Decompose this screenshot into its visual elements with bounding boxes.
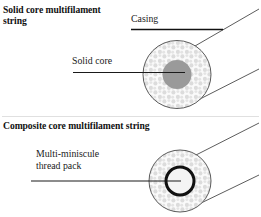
solid-core-disc xyxy=(163,60,192,89)
cylinder-top-edge-line-2 xyxy=(196,123,259,155)
section-title-composite-core: Composite core multifilament string xyxy=(3,120,183,131)
label-solid-core: Solid core xyxy=(72,55,112,67)
cylinder-top-edge-line xyxy=(195,9,259,46)
label-casing: Casing xyxy=(131,13,158,25)
diagram-graphics xyxy=(0,0,261,217)
diagram-canvas: Solid core multifilament string Casing S… xyxy=(0,0,261,217)
section-title-solid-core: Solid core multifilament string xyxy=(3,4,138,26)
label-thread-pack: Multi-miniscule thread pack xyxy=(36,148,99,171)
